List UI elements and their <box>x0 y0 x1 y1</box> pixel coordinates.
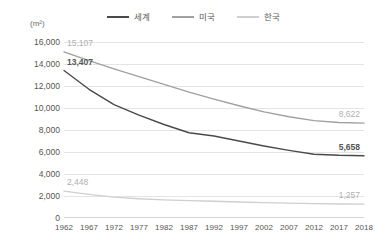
legend-label-usa: 미국 <box>199 13 215 22</box>
plot-area <box>64 42 364 218</box>
value-annotation-world-2018: 5,658 <box>339 143 360 152</box>
x-axis-tick-label: 2018 <box>355 224 373 232</box>
y-axis-tick-label: 8,000 <box>39 126 60 135</box>
value-annotation-usa-1962: 15,107 <box>67 39 93 48</box>
x-axis-tick-label: 2002 <box>255 224 273 232</box>
y-axis-tick-label: 0 <box>55 214 60 223</box>
y-axis-tick-labels: 02,0004,0006,0008,00010,00012,00014,0001… <box>0 42 60 218</box>
x-axis-tick-label: 1997 <box>230 224 248 232</box>
chart-legend: 세계미국한국 <box>0 8 386 26</box>
legend-item-korea[interactable]: 한국 <box>237 13 280 22</box>
x-axis-tick-labels: 1962196719721977198219871992199720022007… <box>64 224 364 238</box>
y-axis-tick-label: 6,000 <box>39 148 60 157</box>
x-axis-tick-label: 1962 <box>55 224 73 232</box>
x-axis-tick-label: 1977 <box>130 224 148 232</box>
y-axis-unit-label: (m²) <box>30 20 45 28</box>
x-axis-tick-label: 1992 <box>205 224 223 232</box>
x-axis-tick-label: 1972 <box>105 224 123 232</box>
y-axis-tick-label: 12,000 <box>34 82 60 91</box>
value-annotation-korea-2018: 1,257 <box>339 191 360 200</box>
legend-label-world: 세계 <box>134 13 150 22</box>
legend-item-world[interactable]: 세계 <box>107 13 150 22</box>
value-annotation-usa-2018: 8,622 <box>339 110 360 119</box>
legend-swatch-world <box>107 16 129 18</box>
legend-label-korea: 한국 <box>264 13 280 22</box>
y-axis-tick-label: 4,000 <box>39 170 60 179</box>
series-line-world <box>64 71 364 156</box>
legend-swatch-usa <box>172 16 194 18</box>
legend-item-usa[interactable]: 미국 <box>172 13 215 22</box>
value-annotation-world-1962: 13,407 <box>67 57 93 66</box>
series-lines <box>64 42 364 218</box>
legend-swatch-korea <box>237 16 259 18</box>
x-axis-tick-label: 2007 <box>280 224 298 232</box>
y-axis-tick-label: 10,000 <box>34 104 60 113</box>
value-annotation-korea-1962: 2,448 <box>67 178 88 187</box>
y-axis-tick-label: 2,000 <box>39 192 60 201</box>
x-axis-tick-label: 1982 <box>155 224 173 232</box>
y-axis-tick-label: 14,000 <box>34 60 60 69</box>
x-axis-tick-label: 1987 <box>180 224 198 232</box>
y-axis-tick-label: 16,000 <box>34 38 60 47</box>
line-chart: 세계미국한국 (m²) 02,0004,0006,0008,00010,0001… <box>0 0 386 248</box>
x-axis-tick-label: 2017 <box>330 224 348 232</box>
x-axis-tick-label: 2012 <box>305 224 323 232</box>
x-axis-tick-label: 1967 <box>80 224 98 232</box>
series-line-usa <box>64 52 364 123</box>
series-line-korea <box>64 191 364 204</box>
